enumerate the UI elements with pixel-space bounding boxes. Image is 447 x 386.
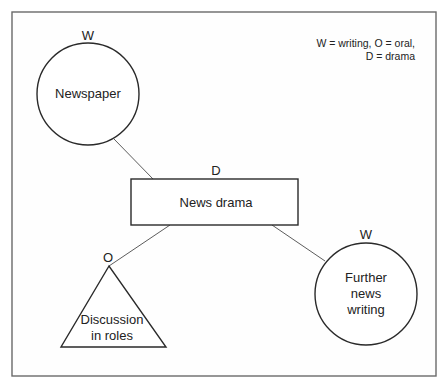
legend-line-1: W = writing, O = oral, bbox=[316, 37, 415, 49]
further-writing-mode-tag: W bbox=[360, 227, 373, 242]
discussion-label-line-2: in roles bbox=[91, 328, 133, 343]
discussion-mode-tag: O bbox=[103, 250, 113, 265]
newspaper-mode-tag: W bbox=[82, 28, 95, 43]
newspaper-label: Newspaper bbox=[55, 86, 121, 101]
news-drama-label: News drama bbox=[180, 195, 254, 210]
news-drama-mode-tag: D bbox=[211, 163, 220, 178]
further-writing-label-line-1: Further bbox=[345, 270, 388, 285]
discussion-label-line-1: Discussion bbox=[81, 312, 144, 327]
further-writing-label-line-3: writing bbox=[346, 302, 385, 317]
legend-line-2: D = drama bbox=[366, 50, 415, 62]
further-writing-label-line-2: news bbox=[351, 286, 382, 301]
diagram-canvas: W = writing, O = oral, D = drama W Newsp… bbox=[0, 0, 447, 386]
